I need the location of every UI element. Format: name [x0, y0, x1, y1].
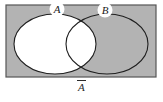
- figure-caption: A: [0, 80, 163, 94]
- set-a-ellipse: [14, 14, 96, 74]
- set-a-label: A: [53, 3, 61, 15]
- caption-complement-a: A: [77, 80, 86, 94]
- set-b-label: B: [102, 4, 109, 16]
- venn-diagram-figure: A B A: [0, 0, 163, 102]
